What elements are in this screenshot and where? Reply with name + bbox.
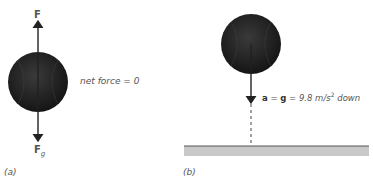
net-force-label: net force = 0 (80, 76, 140, 86)
caption-a: (a) (4, 167, 17, 177)
panel-b: a = g = 9.8 m/s2 down (b) (183, 14, 369, 177)
force-down-label: Fg (34, 144, 46, 158)
caption-b: (b) (183, 167, 196, 177)
ground (184, 146, 369, 156)
force-up-label: F (34, 9, 41, 20)
panel-a: F Fg net force = 0 (a) (4, 9, 140, 177)
acceleration-label: a = g = 9.8 m/s2 down (262, 91, 360, 103)
diagram-canvas: F Fg net force = 0 (a) a = g = 9.8 m/s2 … (0, 0, 373, 182)
